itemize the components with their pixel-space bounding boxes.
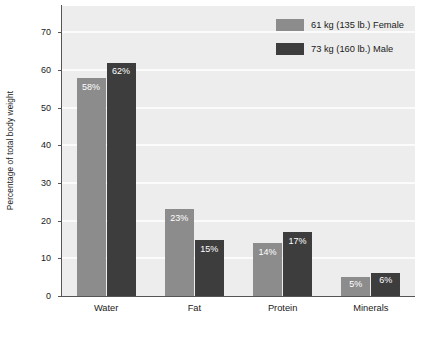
bar-value-label: 5% <box>341 279 370 289</box>
legend-color-swatch <box>276 19 304 31</box>
x-axis-category-labels: WaterFatProteinMinerals <box>62 303 415 325</box>
legend-item: 73 kg (160 lb.) Male <box>276 41 404 56</box>
y-axis-tick-mark <box>58 258 62 259</box>
legend-item: 61 kg (135 lb.) Female <box>276 17 404 32</box>
y-axis-tick-mark <box>58 183 62 184</box>
x-axis-category-label: Fat <box>188 303 201 313</box>
y-axis-tick-mark <box>58 145 62 146</box>
bar <box>107 63 136 297</box>
bar-value-label: 62% <box>107 66 136 76</box>
x-axis-category-label: Minerals <box>353 303 388 313</box>
bar-value-label: 15% <box>195 244 224 254</box>
y-axis-title-text: Percentage of total body weight <box>7 90 16 209</box>
y-axis-tick-mark <box>58 108 62 109</box>
legend-color-swatch <box>276 43 304 55</box>
bar-chart: Percentage of total body weight 01020304… <box>0 0 425 342</box>
y-axis-tick-label: 50 <box>41 103 51 113</box>
x-axis-category-label: Protein <box>268 303 297 313</box>
bar <box>77 78 106 296</box>
chart-legend: 61 kg (135 lb.) Female73 kg (160 lb.) Ma… <box>276 17 404 65</box>
legend-item-label: 61 kg (135 lb.) Female <box>311 20 404 30</box>
y-axis-tick-labels: 010203040506070 <box>22 0 56 342</box>
bar-value-label: 6% <box>371 275 400 285</box>
y-axis-tick-label: 20 <box>41 216 51 226</box>
y-axis-tick-label: 30 <box>41 178 51 188</box>
y-axis-line <box>61 5 62 296</box>
y-axis-tick-label: 10 <box>41 253 51 263</box>
y-axis-tick-mark <box>58 221 62 222</box>
y-axis-tick-label: 70 <box>41 27 51 37</box>
x-axis-category-label: Water <box>94 303 118 313</box>
y-axis-tick-mark <box>58 296 62 297</box>
y-axis-tick-mark <box>58 70 62 71</box>
x-axis-line <box>61 296 415 297</box>
y-axis-tick-label: 40 <box>41 140 51 150</box>
y-axis-tick-label: 60 <box>41 65 51 75</box>
bar-value-label: 58% <box>77 82 106 92</box>
bar-value-label: 17% <box>283 236 312 246</box>
y-axis-title: Percentage of total body weight <box>0 0 22 300</box>
legend-item-label: 73 kg (160 lb.) Male <box>311 44 393 54</box>
y-axis-tick-mark <box>58 32 62 33</box>
y-axis-tick-label: 0 <box>46 291 51 301</box>
bar-value-label: 23% <box>165 213 194 223</box>
bar-value-label: 14% <box>253 247 282 257</box>
